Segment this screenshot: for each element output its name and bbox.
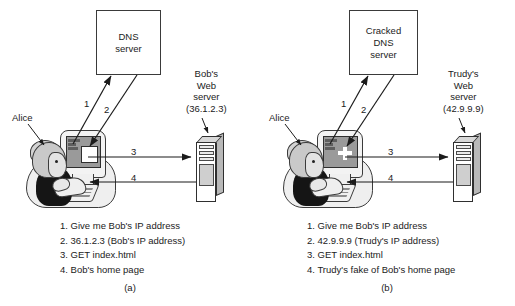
- screen-bar-1: [68, 139, 80, 142]
- legend-item-4: 4. Bob's home page: [60, 263, 185, 278]
- web-server-line-2: Web: [186, 80, 227, 92]
- web-server-label-a: Bob's Web server (36.1.2.3): [186, 68, 227, 114]
- web-server-line-1: Trudy's: [443, 68, 484, 80]
- alice-face: [48, 152, 67, 178]
- arrow-number-3-b: 3: [388, 146, 393, 158]
- legend-a: 1. Give me Bob's IP address 2. 36.1.2.3 …: [60, 219, 185, 277]
- arrow-number-3-a: 3: [131, 146, 136, 158]
- legend-item-1: 1. Give me Bob's IP address: [60, 219, 185, 234]
- screen-bar-2: [68, 143, 76, 146]
- alice-workstation-a: [24, 122, 120, 206]
- legend-item-2: 2. 36.1.2.3 (Bob's IP address): [60, 234, 185, 249]
- tower-drive-slot-1: [456, 145, 471, 149]
- arrow-number-2-b: 2: [361, 104, 366, 116]
- arrow-number-4-a: 4: [131, 172, 136, 184]
- legend-item-3: 3. GET index.html: [307, 248, 455, 263]
- screen-window: [81, 146, 98, 163]
- screen-bar-1: [325, 139, 337, 142]
- arrow-number-4-b: 4: [388, 172, 393, 184]
- panel-a: DNS server Bob's Web server (36.1.2.3) A…: [0, 0, 257, 306]
- dns-server-box-b: Cracked DNS server: [349, 10, 418, 75]
- legend-item-1: 1. Give me Bob's IP address: [307, 219, 455, 234]
- web-server-line-4: (36.1.2.3): [186, 103, 227, 115]
- panel-caption-a: (a): [100, 282, 160, 293]
- panel-b: Cracked DNS server Trudy's Web server (4…: [257, 0, 514, 306]
- tower-side: [473, 132, 481, 196]
- alice-eye: [312, 160, 315, 163]
- web-server-line-4: (42.9.9.9): [443, 103, 484, 115]
- arrow-number-1-a: 1: [84, 98, 89, 110]
- tower-drive-slot-1: [199, 145, 214, 149]
- tower-side: [216, 132, 224, 196]
- web-server-line-3: server: [443, 91, 484, 103]
- arrow-number-2-a: 2: [104, 104, 109, 116]
- arrow-number-1-b: 1: [341, 98, 346, 110]
- alice-face: [305, 152, 324, 178]
- legend-b: 1. Give me Bob's IP address 2. 42.9.9.9 …: [307, 219, 455, 277]
- dns-server-line-3: server: [366, 49, 401, 61]
- alice-eye: [55, 160, 58, 163]
- panel-caption-b: (b): [357, 282, 417, 293]
- web-server-line-1: Bob's: [186, 68, 227, 80]
- web-server-tower-b: [453, 136, 481, 202]
- screen-bar-2: [325, 143, 333, 146]
- web-server-label-b: Trudy's Web server (42.9.9.9): [443, 68, 484, 114]
- tower-panel: [456, 164, 471, 186]
- screen-bar-3: [325, 147, 335, 150]
- web-server-line-2: Web: [443, 80, 484, 92]
- dns-server-line-1: Cracked: [366, 25, 401, 37]
- tower-drive-slot-2: [199, 151, 214, 155]
- web-server-line-3: server: [186, 91, 227, 103]
- dns-server-line-2: DNS: [366, 37, 401, 49]
- legend-item-2: 2. 42.9.9.9 (Trudy's IP address): [307, 234, 455, 249]
- tower-panel: [199, 164, 214, 186]
- tower-drive-slot-2: [456, 151, 471, 155]
- alice-workstation-b: [281, 122, 377, 206]
- web-server-tower-a: [196, 136, 224, 202]
- tower-drive-slot-3: [456, 157, 471, 161]
- legend-item-3: 3. GET index.html: [60, 248, 185, 263]
- tower-drive-slot-3: [199, 157, 214, 161]
- legend-item-4: 4. Trudy's fake of Bob's home page: [307, 263, 455, 278]
- screen-bar-3: [68, 147, 78, 150]
- dns-server-line-1: DNS: [115, 31, 141, 43]
- dns-server-box-a: DNS server: [96, 10, 161, 75]
- dns-server-line-2: server: [115, 43, 141, 55]
- dns-spoofing-figure: DNS server Bob's Web server (36.1.2.3) A…: [0, 0, 515, 306]
- screen-cross-horizontal: [338, 151, 352, 155]
